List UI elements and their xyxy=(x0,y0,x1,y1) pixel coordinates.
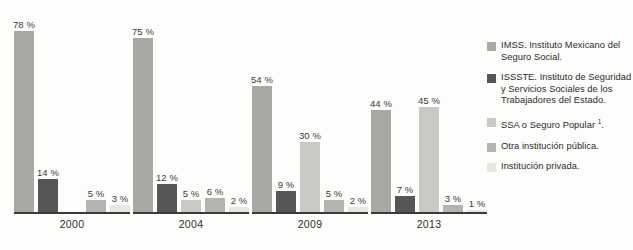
bar-slot: 9 % xyxy=(276,26,296,212)
bars-container: 78 %14 %5 %3 % xyxy=(14,26,130,212)
bar-value-label: 44 % xyxy=(370,98,392,109)
bar-slot: 5 % xyxy=(324,26,344,212)
chart-legend: IMSS. Instituto Mexicano del Seguro Soci… xyxy=(487,40,633,182)
legend-item-label: IMSS. Instituto Mexicano del Seguro Soci… xyxy=(501,40,633,63)
bar-value-label: 2 % xyxy=(231,195,248,206)
bar-value-label: 7 % xyxy=(397,184,414,195)
bar-slot: 3 % xyxy=(443,26,463,212)
bar-value-label: 45 % xyxy=(418,95,440,106)
bar-2000-ISSSTE[interactable] xyxy=(38,179,58,212)
bar-2009-IMSS[interactable] xyxy=(252,86,272,212)
group-baseline-axis xyxy=(14,212,130,214)
bar-slot: 30 % xyxy=(300,26,320,212)
bar-2009-ISSSTE[interactable] xyxy=(276,191,296,212)
legend-swatch-icon xyxy=(487,118,496,127)
bar-2004-SSA[interactable] xyxy=(181,200,201,212)
bar-slot: 78 % xyxy=(14,26,34,212)
bar-2004-Otra[interactable] xyxy=(205,198,225,212)
legend-item-label: SSA o Seguro Popular 1. xyxy=(501,116,604,132)
bar-group-2009: 54 %9 %30 %5 %2 %2009 xyxy=(252,18,368,230)
x-axis-tick-2000: 2000 xyxy=(14,218,130,230)
bar-value-label: 30 % xyxy=(299,130,321,141)
bar-value-label: 9 % xyxy=(278,179,295,190)
bar-slot: 2 % xyxy=(229,26,249,212)
bar-slot: 6 % xyxy=(205,26,225,212)
bar-chart-figure: 78 %14 %5 %3 %200075 %12 %5 %6 %2 %20045… xyxy=(0,0,633,250)
bar-value-label: 6 % xyxy=(207,186,224,197)
plot-area: 78 %14 %5 %3 %200075 %12 %5 %6 %2 %20045… xyxy=(0,0,480,250)
bar-slot: 44 % xyxy=(371,26,391,212)
legend-item-3[interactable]: Otra institución pública. xyxy=(487,141,633,153)
bar-slot: 1 % xyxy=(467,26,487,212)
bar-2013-SSA[interactable] xyxy=(419,107,439,212)
bar-slot: 54 % xyxy=(252,26,272,212)
group-baseline-axis xyxy=(252,212,368,214)
bars-container: 44 %7 %45 %3 %1 % xyxy=(371,26,487,212)
bar-slot: 7 % xyxy=(395,26,415,212)
bar-slot: 45 % xyxy=(419,26,439,212)
bar-value-label: 14 % xyxy=(37,167,59,178)
bar-2000-IMSS[interactable] xyxy=(14,31,34,212)
bar-value-label: 5 % xyxy=(183,188,200,199)
x-axis-tick-2004: 2004 xyxy=(133,218,249,230)
x-axis-tick-2009: 2009 xyxy=(252,218,368,230)
bar-2004-IMSS[interactable] xyxy=(133,38,153,212)
bar-value-label: 5 % xyxy=(326,188,343,199)
bar-2013-Otra[interactable] xyxy=(443,205,463,212)
legend-item-2[interactable]: SSA o Seguro Popular 1. xyxy=(487,116,633,132)
bar-slot: 75 % xyxy=(133,26,153,212)
legend-item-label: ISSSTE. Instituto de Seguridad y Servici… xyxy=(501,72,633,107)
bar-slot: 2 % xyxy=(348,26,368,212)
bar-value-label: 3 % xyxy=(112,193,129,204)
bar-value-label: 54 % xyxy=(251,74,273,85)
bar-value-label: 2 % xyxy=(350,195,367,206)
bar-value-label: 75 % xyxy=(132,26,154,37)
bar-slot: 12 % xyxy=(157,26,177,212)
bar-slot: 5 % xyxy=(181,26,201,212)
legend-item-label: Institución privada. xyxy=(501,161,580,173)
legend-item-4[interactable]: Institución privada. xyxy=(487,161,633,173)
bar-2000-Otra[interactable] xyxy=(86,200,106,212)
bar-slot xyxy=(62,26,82,212)
bar-2009-SSA[interactable] xyxy=(300,142,320,212)
legend-swatch-icon xyxy=(487,143,496,152)
bar-2013-ISSSTE[interactable] xyxy=(395,196,415,212)
legend-item-label: Otra institución pública. xyxy=(501,141,599,153)
group-baseline-axis xyxy=(133,212,249,214)
x-axis-tick-2013: 2013 xyxy=(371,218,487,230)
bars-container: 75 %12 %5 %6 %2 % xyxy=(133,26,249,212)
bar-2004-ISSSTE[interactable] xyxy=(157,184,177,212)
bar-value-label: 1 % xyxy=(469,198,486,209)
footnote-marker: 1 xyxy=(598,118,602,125)
group-baseline-axis xyxy=(371,212,487,214)
legend-item-1[interactable]: ISSSTE. Instituto de Seguridad y Servici… xyxy=(487,72,633,107)
bar-slot: 14 % xyxy=(38,26,58,212)
bar-slot: 3 % xyxy=(110,26,130,212)
bar-2000-Privada[interactable] xyxy=(110,205,130,212)
legend-swatch-icon xyxy=(487,74,496,83)
legend-swatch-icon xyxy=(487,42,496,51)
bars-container: 54 %9 %30 %5 %2 % xyxy=(252,26,368,212)
legend-swatch-icon xyxy=(487,163,496,172)
bar-2009-Otra[interactable] xyxy=(324,200,344,212)
bar-group-2013: 44 %7 %45 %3 %1 %2013 xyxy=(371,18,487,230)
bar-value-label: 5 % xyxy=(88,188,105,199)
bar-2013-IMSS[interactable] xyxy=(371,110,391,212)
legend-item-0[interactable]: IMSS. Instituto Mexicano del Seguro Soci… xyxy=(487,40,633,63)
bar-group-2004: 75 %12 %5 %6 %2 %2004 xyxy=(133,18,249,230)
bar-value-label: 12 % xyxy=(156,172,178,183)
bar-value-label: 78 % xyxy=(13,19,35,30)
bar-slot: 5 % xyxy=(86,26,106,212)
bar-value-label: 3 % xyxy=(445,193,462,204)
bar-group-2000: 78 %14 %5 %3 %2000 xyxy=(14,18,130,230)
